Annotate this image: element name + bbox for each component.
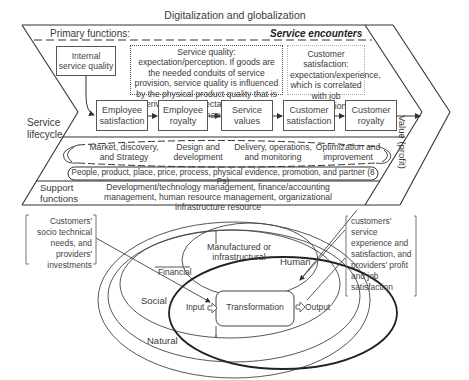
service-values-box: Service values <box>221 100 273 131</box>
employee-royalty-box: Employee royalty <box>158 100 208 131</box>
support-functions-text: Development/technology management, finan… <box>92 183 344 213</box>
employee-satisfaction-box: Employee satisfaction <box>96 100 148 131</box>
page-title: Digitalization and globalization <box>100 9 370 21</box>
social-label: Social <box>141 296 167 307</box>
right-note: customers' service experience and satisf… <box>351 216 415 292</box>
service-quality-note: Service quality: expectation/perception.… <box>130 45 283 95</box>
output-connector <box>300 230 345 280</box>
value-profit-label: Value (profit) <box>396 112 407 172</box>
value-connector <box>300 210 357 280</box>
stage-design: Design and development <box>168 143 228 163</box>
transformation-label: Transformation <box>216 303 294 313</box>
service-encounters-label: Service encounters <box>270 28 362 40</box>
financial-label: Financial <box>158 268 192 278</box>
service-lifecycle-label: Service lifecycle <box>27 117 72 140</box>
stage-delivery: Delivery, operations, and monitoring <box>228 143 318 163</box>
customer-satisfaction-box: Customer satisfaction <box>283 100 335 131</box>
output-label: Output <box>305 303 330 313</box>
stage-market: Market, discovery, and Strategy <box>86 143 162 163</box>
customer-satisfaction-note: Customer satisfaction: expectation/exper… <box>287 45 365 95</box>
customer-royalty-box: Customer royalty <box>345 100 397 131</box>
support-functions-label: Support functions <box>40 183 88 205</box>
primary-functions-label: Primary functions: <box>50 28 130 40</box>
stage-optimization: Optimization and improvement <box>312 143 384 163</box>
left-bracket-right <box>93 215 96 264</box>
left-note: Customers' socio technical needs, and pr… <box>30 216 92 271</box>
output-arrow-icon <box>296 302 305 312</box>
human-label: Human <box>280 257 311 268</box>
input-label: Input <box>186 303 204 312</box>
left-bracket <box>26 215 29 264</box>
internal-service-quality-box: Internal service quality <box>56 46 116 76</box>
natural-label: Natural <box>147 336 178 347</box>
manufactured-label: Manufactured or infrastructural <box>190 242 288 262</box>
